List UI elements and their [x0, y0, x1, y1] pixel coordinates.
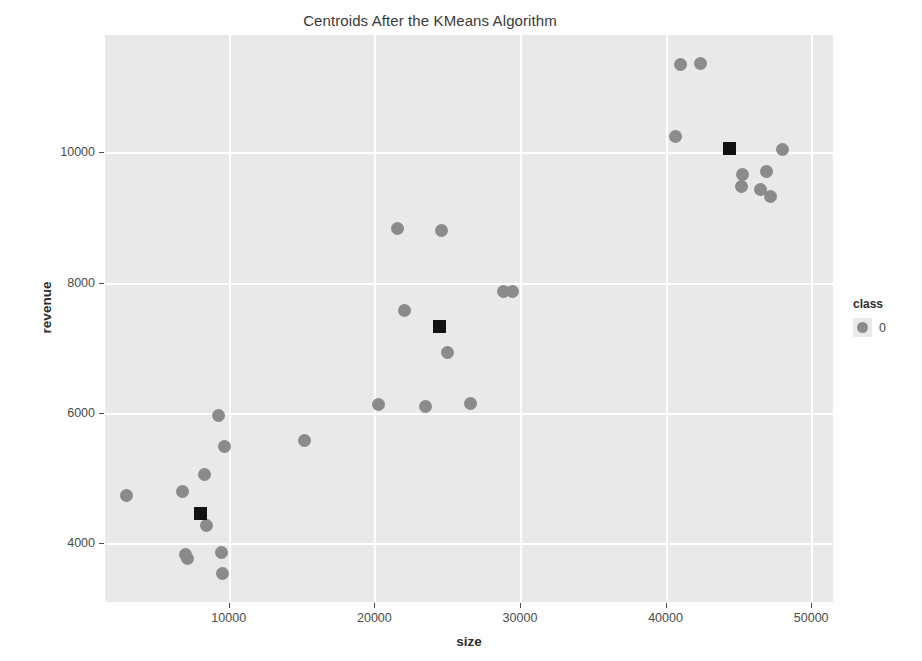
x-tick-mark — [811, 603, 812, 608]
data-point — [215, 546, 228, 559]
centroid-marker — [723, 142, 736, 155]
y-tick-label: 6000 — [41, 406, 95, 420]
data-point — [212, 409, 225, 422]
x-tick-label: 30000 — [503, 611, 538, 625]
data-point — [674, 58, 687, 71]
data-point — [176, 485, 189, 498]
legend: class 0 — [853, 297, 886, 337]
x-tick-label: 20000 — [357, 611, 392, 625]
legend-key — [853, 318, 872, 337]
y-tick-mark — [99, 152, 104, 153]
x-tick-label: 10000 — [211, 611, 246, 625]
legend-title: class — [853, 297, 886, 311]
y-tick-label: 10000 — [41, 145, 95, 159]
data-point — [216, 567, 229, 580]
plot-panel — [105, 35, 833, 602]
data-point — [398, 304, 411, 317]
centroid-marker — [433, 320, 446, 333]
data-point — [200, 519, 213, 532]
gridline-vertical — [374, 35, 376, 602]
data-point — [694, 57, 707, 70]
data-point — [435, 224, 448, 237]
data-point — [120, 489, 133, 502]
y-axis-label: revenue — [39, 248, 54, 368]
data-point — [669, 130, 682, 143]
data-point — [736, 168, 749, 181]
x-tick-label: 50000 — [794, 611, 829, 625]
data-point — [391, 222, 404, 235]
x-tick-mark — [520, 603, 521, 608]
data-point — [776, 143, 789, 156]
y-tick-mark — [99, 283, 104, 284]
y-tick-mark — [99, 413, 104, 414]
legend-swatch-circle-icon — [857, 322, 868, 333]
scatter-plot: Centroids After the KMeans Algorithm 100… — [0, 0, 922, 661]
gridline-horizontal — [105, 283, 833, 285]
data-point — [764, 190, 777, 203]
data-point — [464, 397, 477, 410]
y-tick-mark — [99, 543, 104, 544]
data-point — [419, 400, 432, 413]
gridline-vertical — [520, 35, 522, 602]
gridline-vertical — [811, 35, 813, 602]
x-tick-mark — [229, 603, 230, 608]
data-point — [198, 468, 211, 481]
page-title: Centroids After the KMeans Algorithm — [0, 12, 860, 29]
legend-label: 0 — [879, 321, 886, 335]
legend-entries: 0 — [853, 318, 886, 337]
y-tick-label: 4000 — [41, 536, 95, 550]
data-point — [441, 346, 454, 359]
data-point — [181, 552, 194, 565]
x-axis-label: size — [105, 634, 833, 649]
x-tick-label: 40000 — [648, 611, 683, 625]
x-tick-mark — [666, 603, 667, 608]
gridline-horizontal — [105, 543, 833, 545]
gridline-vertical — [666, 35, 668, 602]
data-point — [372, 398, 385, 411]
centroid-marker — [194, 507, 207, 520]
x-tick-mark — [374, 603, 375, 608]
data-point — [760, 165, 773, 178]
data-point — [298, 434, 311, 447]
gridline-vertical — [229, 35, 231, 602]
data-point — [506, 285, 519, 298]
legend-item[interactable]: 0 — [853, 318, 886, 337]
data-point — [735, 180, 748, 193]
